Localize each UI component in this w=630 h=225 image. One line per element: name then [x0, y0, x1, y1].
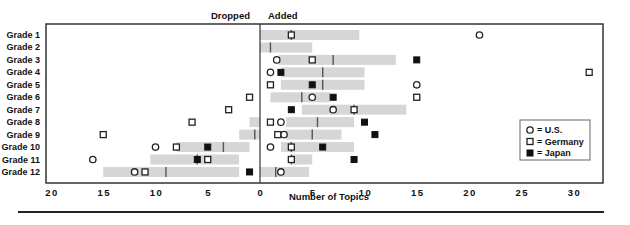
japan-marker-icon: [205, 144, 211, 150]
x-axis-label: Number of Topics: [289, 191, 369, 202]
category-label: Grade 7: [6, 105, 40, 115]
japan-marker-icon: [320, 144, 326, 150]
x-tick-label: 15: [97, 187, 111, 198]
category-label: Grade 4: [6, 67, 40, 77]
x-tick-label: 15: [411, 187, 425, 198]
category-label: Grade 10: [1, 142, 40, 152]
range-bar: [176, 142, 249, 152]
us-marker-icon: [267, 69, 273, 75]
range-bar: [260, 42, 312, 52]
x-tick-label: 10: [359, 187, 373, 198]
category-label: Grade 1: [6, 30, 40, 40]
us-marker-icon: [330, 107, 336, 113]
germany-marker-icon: [173, 144, 179, 150]
germany-marker-icon: [527, 139, 533, 145]
us-marker-icon: [476, 32, 482, 38]
plot-frame: [46, 24, 603, 183]
range-bars: [103, 30, 406, 177]
range-bar: [286, 130, 341, 140]
us-marker-icon: [527, 127, 533, 133]
germany-marker-icon: [414, 94, 420, 100]
x-tick-label: 20: [45, 187, 59, 198]
germany-marker-icon: [189, 119, 195, 125]
legend-label: = Japan: [537, 148, 571, 158]
germany-marker-icon: [142, 169, 148, 175]
category-label: Grade 9: [6, 130, 40, 140]
range-bar: [270, 92, 330, 102]
header-added: Added: [268, 10, 298, 21]
us-marker-icon: [90, 156, 96, 162]
japan-marker-icon: [309, 82, 315, 88]
range-bar: [239, 130, 260, 140]
x-tick-label: 0: [258, 187, 265, 198]
japan-marker-icon: [414, 57, 420, 63]
us-marker-icon: [414, 82, 420, 88]
japan-marker-icon: [330, 94, 336, 100]
range-bar: [103, 167, 239, 177]
category-label: Grade 6: [6, 92, 40, 102]
japan-marker-icon: [362, 119, 368, 125]
x-tick-label: 10: [150, 187, 164, 198]
germany-marker-icon: [288, 157, 294, 163]
japan-marker-icon: [527, 150, 533, 156]
germany-marker-icon: [267, 82, 273, 88]
japan-marker-icon: [247, 169, 253, 175]
us-marker-icon: [278, 169, 284, 175]
x-tick-label: 5: [205, 187, 212, 198]
germany-marker-icon: [288, 32, 294, 38]
germany-marker-icon: [267, 119, 273, 125]
range-bar: [279, 55, 396, 65]
japan-marker-icon: [288, 107, 294, 113]
range-bar: [250, 117, 260, 127]
legend-label: = Germany: [537, 137, 584, 147]
data-points: [90, 32, 593, 175]
us-marker-icon: [278, 119, 284, 125]
category-label: Grade 5: [6, 80, 40, 90]
germany-marker-icon: [586, 69, 592, 75]
category-label: Grade 3: [6, 55, 40, 65]
category-label: Grade 12: [1, 167, 40, 177]
x-tick-label: 30: [568, 187, 582, 198]
x-tick-label: 25: [515, 187, 529, 198]
x-tick-label: 5: [310, 187, 317, 198]
us-marker-icon: [281, 131, 287, 137]
germany-marker-icon: [226, 107, 232, 113]
us-marker-icon: [309, 94, 315, 100]
header-dropped: Dropped: [211, 10, 250, 21]
japan-marker-icon: [194, 157, 200, 163]
japan-marker-icon: [278, 69, 284, 75]
category-label: Grade 11: [2, 155, 40, 165]
germany-marker-icon: [205, 157, 211, 163]
legend: = U.S.= Germany= Japan: [520, 120, 590, 160]
category-label: Grade 2: [6, 42, 40, 52]
germany-marker-icon: [275, 132, 281, 138]
germany-marker-icon: [288, 144, 294, 150]
range-bar: [260, 30, 359, 40]
legend-label: = U.S.: [537, 125, 562, 135]
x-tick-label: 20: [463, 187, 477, 198]
range-bar: [286, 117, 354, 127]
germany-marker-icon: [351, 107, 357, 113]
germany-marker-icon: [309, 57, 315, 63]
japan-marker-icon: [372, 132, 378, 138]
germany-marker-icon: [100, 132, 106, 138]
category-label: Grade 8: [6, 117, 40, 127]
japan-marker-icon: [351, 157, 357, 163]
us-marker-icon: [152, 144, 158, 150]
us-marker-icon: [131, 169, 137, 175]
plot-border: [46, 24, 603, 183]
topics-chart: Dropped Added Number of Topics Grade 1Gr…: [0, 0, 630, 225]
germany-marker-icon: [247, 94, 253, 100]
us-marker-icon: [274, 57, 280, 63]
us-marker-icon: [267, 144, 273, 150]
